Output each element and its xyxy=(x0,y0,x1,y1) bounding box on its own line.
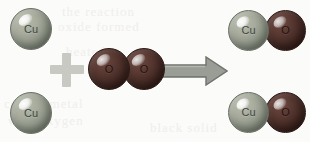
copper-oxide-top-copper-atom: Cu xyxy=(228,10,269,51)
oxygen-atom-right-label: O xyxy=(124,64,164,75)
ghost-text-line-6: black solid xyxy=(150,120,218,136)
copper-oxide-bottom-oxygen-atom: O xyxy=(265,92,306,133)
copper-atom-top: Cu xyxy=(10,8,52,50)
copper-oxide-bottom-oxygen-label: O xyxy=(266,107,305,118)
copper-atom-bottom-label: Cu xyxy=(11,108,51,119)
copper-oxide-top-oxygen-atom: O xyxy=(265,10,306,51)
copper-atom-top-label: Cu xyxy=(11,24,51,35)
copper-atom-bottom: Cu xyxy=(10,92,52,134)
oxygen-atom-left-label: O xyxy=(89,64,129,75)
copper-oxide-top-copper-label: Cu xyxy=(229,25,268,36)
ghost-text-line-1: the reaction xyxy=(62,4,135,20)
copper-oxide-bottom-copper-label: Cu xyxy=(229,107,268,118)
plus-bar-vertical xyxy=(62,53,71,87)
reaction-arrow-icon xyxy=(162,56,228,86)
reaction-diagram: the reaction oxide formed heated copper … xyxy=(0,0,310,142)
plus-sign-icon xyxy=(50,53,84,87)
copper-oxide-top-oxygen-label: O xyxy=(266,25,305,36)
copper-oxide-bottom-copper-atom: Cu xyxy=(228,92,269,133)
oxygen-molecule-atom-left: O xyxy=(88,48,130,90)
ghost-text-line-2: oxide formed xyxy=(58,19,140,35)
